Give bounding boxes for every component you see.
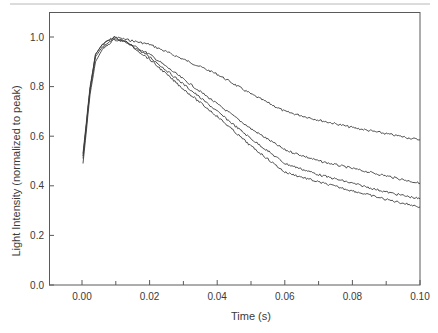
series-line-3 <box>83 39 420 199</box>
y-tick-label: 0.0 <box>30 280 44 291</box>
x-tick-label: 0.04 <box>207 291 227 302</box>
series-line-1 <box>83 37 420 154</box>
chart-canvas: 0.000.020.040.060.080.10 0.00.20.40.60.8… <box>0 0 438 333</box>
x-tick-label: 0.08 <box>343 291 363 302</box>
series-line-4 <box>83 39 420 208</box>
x-tick-label: 0.02 <box>140 291 160 302</box>
plot-frame <box>50 13 421 286</box>
data-series <box>83 37 420 208</box>
y-tick-label: 0.6 <box>30 131 44 142</box>
y-tick-label: 0.8 <box>30 81 44 92</box>
series-line-2 <box>83 37 420 184</box>
y-tick-label: 0.4 <box>30 180 44 191</box>
x-tick-label: 0.10 <box>410 291 430 302</box>
y-axis: 0.00.20.40.60.81.0 <box>30 32 54 291</box>
y-tick-label: 1.0 <box>30 32 44 43</box>
x-tick-label: 0.00 <box>72 291 92 302</box>
chart: 0.000.020.040.060.080.10 0.00.20.40.60.8… <box>0 0 438 333</box>
x-axis: 0.000.020.040.060.080.10 <box>72 280 430 302</box>
x-tick-label: 0.06 <box>275 291 295 302</box>
y-tick-label: 0.2 <box>30 230 44 241</box>
y-axis-label: Light Intensity (normalized to peak) <box>10 85 22 256</box>
x-axis-label: Time (s) <box>231 310 271 322</box>
